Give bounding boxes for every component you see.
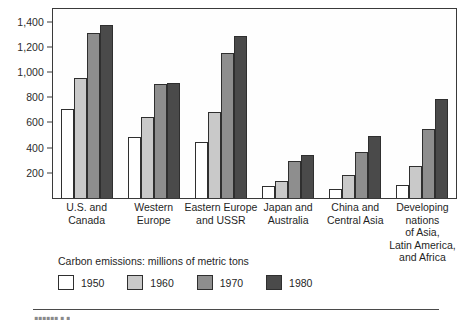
legend-swatch-1980 — [266, 275, 282, 290]
y-axis-tick-label: 1,200 — [17, 41, 44, 53]
legend-item-1980[interactable]: 1980 — [266, 275, 312, 290]
bar-1980[interactable] — [368, 136, 381, 198]
bar-1950[interactable] — [329, 189, 342, 198]
legend-swatch-1970 — [197, 275, 213, 290]
y-axis-tick-label: 1,400 — [17, 16, 44, 28]
legend-label-1980: 1980 — [289, 277, 312, 289]
bar-1960[interactable] — [275, 181, 288, 198]
legend-label-1970: 1970 — [220, 277, 243, 289]
bar-1970[interactable] — [87, 33, 100, 198]
x-axis-category-label: Developing nations of Asia, Latin Americ… — [377, 201, 468, 264]
y-axis-tick-label: 200 — [26, 167, 44, 179]
bar-group-bars — [255, 9, 330, 198]
bar-group-bars — [389, 9, 464, 198]
bar-1980[interactable] — [435, 99, 448, 198]
bar-1960[interactable] — [342, 175, 355, 198]
bar-1960[interactable] — [208, 112, 221, 198]
bar-group-bars — [187, 9, 262, 198]
bar-group-bars — [120, 9, 195, 198]
y-axis-tick-label: 1,000 — [17, 66, 44, 78]
bar-group-bars — [322, 9, 397, 198]
bar-1980[interactable] — [301, 155, 314, 198]
bar-group — [53, 9, 120, 198]
bar-1970[interactable] — [154, 84, 167, 198]
footer-cropped-text: ▮▮▮▮▮▮ ▮ ▮ — [34, 315, 70, 320]
legend-label-1960: 1960 — [150, 277, 173, 289]
legend: Carbon emissions: millions of metric ton… — [58, 255, 335, 290]
legend-item-1950[interactable]: 1950 — [58, 275, 104, 290]
legend-items: 1950196019701980 — [58, 275, 335, 290]
bar-1950[interactable] — [128, 137, 141, 198]
bar-1950[interactable] — [396, 185, 409, 198]
bar-1960[interactable] — [74, 78, 87, 198]
bar-group — [255, 9, 322, 198]
bar-group — [120, 9, 187, 198]
legend-swatch-1960 — [127, 275, 143, 290]
bar-1970[interactable] — [355, 152, 368, 198]
legend-caption: Carbon emissions: millions of metric ton… — [58, 255, 335, 267]
bar-group — [187, 9, 254, 198]
y-axis-tick-label: 600 — [26, 116, 44, 128]
legend-item-1960[interactable]: 1960 — [127, 275, 173, 290]
bar-group — [322, 9, 389, 198]
bar-1950[interactable] — [262, 186, 275, 198]
bar-1980[interactable] — [100, 25, 113, 198]
bar-1970[interactable] — [288, 161, 301, 198]
bar-group — [389, 9, 456, 198]
bar-1960[interactable] — [141, 117, 154, 198]
bar-1950[interactable] — [195, 142, 208, 198]
bar-1980[interactable] — [234, 36, 247, 198]
legend-label-1950: 1950 — [81, 277, 104, 289]
bar-1970[interactable] — [422, 129, 435, 198]
y-axis-tick-label: 400 — [26, 142, 44, 154]
y-axis-labels: 2004006008001,0001,2001,400 — [0, 8, 44, 199]
plot-area — [53, 9, 456, 198]
bar-1970[interactable] — [221, 53, 234, 198]
bar-1960[interactable] — [409, 166, 422, 198]
bar-chart-figure: 2004006008001,0001,2001,400 U.S. and Can… — [0, 0, 476, 323]
bar-1950[interactable] — [61, 109, 74, 198]
legend-swatch-1950 — [58, 275, 74, 290]
bar-group-bars — [53, 9, 128, 198]
legend-item-1970[interactable]: 1970 — [197, 275, 243, 290]
bar-1980[interactable] — [167, 83, 180, 198]
footer-divider — [33, 309, 439, 310]
y-axis-tick-label: 800 — [26, 91, 44, 103]
